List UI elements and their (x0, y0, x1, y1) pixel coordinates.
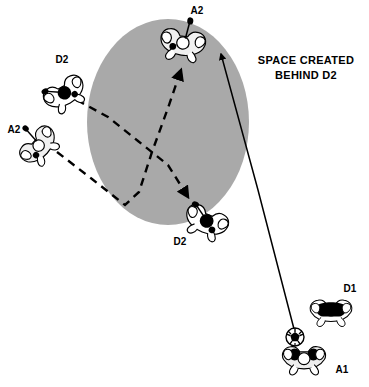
diagram-canvas: A2 D2 A2 D2 D1 A1 SPACE CREATED BEHIND D… (0, 0, 369, 387)
label-d2-lower: D2 (174, 236, 187, 247)
label-d1-right: D1 (344, 283, 357, 294)
label-a2-left: A2 (8, 124, 21, 135)
player-d2-upper-left[interactable] (39, 70, 91, 118)
player-a2-left[interactable] (7, 114, 65, 173)
label-a1-ball-carrier: A1 (336, 364, 349, 375)
soccer-ball (286, 328, 304, 346)
label-a2-top: A2 (191, 5, 204, 16)
player-a1-ball-carrier[interactable] (282, 347, 325, 375)
play-diagram: A2 D2 A2 D2 D1 A1 SPACE CREATED BEHIND D… (0, 0, 369, 387)
player-d1-right[interactable] (310, 300, 352, 327)
label-d2-upper-left: D2 (56, 54, 69, 65)
annotation-line-1: SPACE CREATED (258, 54, 354, 66)
annotation-line-2: BEHIND D2 (275, 69, 337, 81)
pass-line (221, 54, 294, 329)
